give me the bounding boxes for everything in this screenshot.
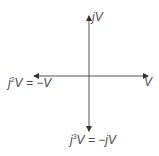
label-j3v-suffix: V = −jV (77, 133, 116, 147)
label-j2v: j2V = −V (8, 74, 51, 89)
label-j3v: j3V = −jV (70, 131, 116, 146)
label-jv: jV (92, 11, 103, 23)
phasor-diagram: jV V j2V = −V j3V = −jV (0, 0, 159, 156)
label-j2v-suffix: V = −V (15, 76, 52, 90)
label-v: V (144, 76, 152, 88)
